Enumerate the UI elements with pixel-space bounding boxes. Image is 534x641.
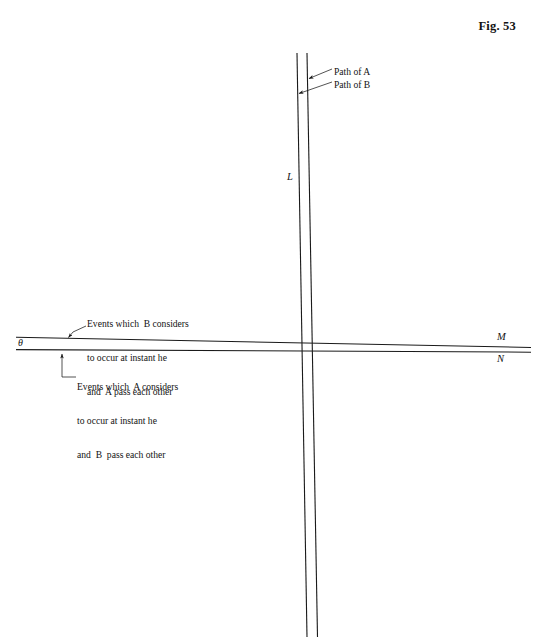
note-a-leader xyxy=(62,354,76,377)
path-of-b-label: Path of B xyxy=(334,79,370,91)
note-b-leader xyxy=(69,326,87,338)
diagram-canvas xyxy=(0,0,534,641)
path-of-b-line xyxy=(297,53,307,637)
note-b-line-1: Events which B considers xyxy=(87,318,189,329)
note-a-line-1: Events which A considers xyxy=(77,381,178,392)
path-of-a-leader xyxy=(309,69,332,79)
axis-label-n: N xyxy=(497,353,504,365)
path-of-a-line xyxy=(307,53,318,637)
axis-label-m: M xyxy=(497,331,506,343)
note-a-line-3: and B pass each other xyxy=(77,449,178,460)
figure-caption: Fig. 53 xyxy=(478,21,516,33)
path-of-a-label: Path of A xyxy=(334,66,370,78)
angle-theta-label: θ xyxy=(18,337,23,349)
note-a-text: Events which A considers to occur at ins… xyxy=(77,358,178,483)
figure-page: Fig. 53 Path of A Path of B L M N θ Even… xyxy=(0,0,534,641)
path-of-b-leader xyxy=(299,82,332,94)
axis-label-l: L xyxy=(287,171,293,183)
note-a-line-2: to occur at instant he xyxy=(77,415,178,426)
